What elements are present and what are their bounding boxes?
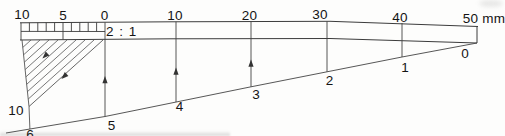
hatched-triangle — [22, 40, 103, 129]
bottom-scale-label: 4 — [176, 100, 184, 114]
top-scale-label: 0 — [101, 9, 109, 23]
scale-band — [20, 21, 478, 43]
band-bottom-line — [20, 39, 477, 44]
bottom-scale-label: 0 — [461, 47, 469, 61]
scan-smudge — [479, 0, 503, 7]
ratio-label: 2 : 1 — [106, 25, 137, 39]
arrowheads — [42, 52, 253, 84]
top-scale-label: 5 — [59, 9, 67, 23]
up-arrow-icon — [248, 60, 253, 67]
bottom-scale-label: 2 — [326, 74, 334, 88]
up-arrow-icon — [173, 68, 178, 75]
top-scale-unit-label: 50 mm — [463, 12, 505, 26]
up-arrow-icon — [102, 76, 107, 83]
left-ruler — [21, 22, 105, 40]
down-left-arrow-icon — [61, 72, 68, 79]
top-scale-label: 20 — [242, 9, 257, 23]
bottom-scale-label: 3 — [252, 88, 260, 102]
measuring-verticals — [105, 21, 402, 116]
scan-smudge — [0, 131, 230, 136]
hatch-lines — [23, 40, 94, 99]
top-scale-label: 10 — [167, 9, 182, 23]
top-scale-label: 40 — [392, 11, 407, 25]
proportional-diagonal — [6, 43, 477, 133]
bottom-scale-label: 10 — [8, 104, 23, 118]
top-scale-label: 30 — [312, 8, 327, 22]
triangle-left-edge — [22, 40, 29, 107]
top-scale-label: 10 — [14, 8, 29, 22]
bottom-scale-label: 1 — [401, 61, 409, 75]
reduction-scale-diagram: 10 5 0 10 20 30 40 50 mm 2 : 1 10 6 5 4 … — [0, 0, 505, 136]
triangle-hypotenuse — [29, 40, 103, 107]
ruler-ticks — [29, 22, 96, 31]
